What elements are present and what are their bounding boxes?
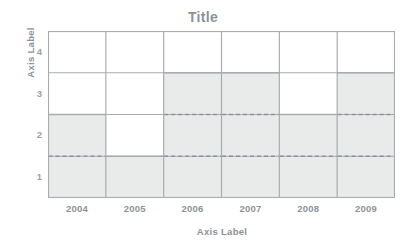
y-tick-label-1: 1 [22, 171, 42, 182]
bar-2005 [106, 156, 164, 198]
bar-2009 [337, 73, 395, 198]
plot-svg [48, 31, 395, 198]
x-tick-label-2009: 2009 [337, 203, 395, 214]
y-axis-label: Axis Label [25, 0, 36, 127]
x-tick-label-2006: 2006 [164, 203, 222, 214]
y-tick-label-2: 2 [22, 129, 42, 140]
bar-2006 [164, 73, 222, 198]
x-tick-label-2007: 2007 [222, 203, 280, 214]
plot-area [48, 31, 395, 198]
chart-title: Title [0, 9, 406, 25]
x-tick-label-2005: 2005 [106, 203, 164, 214]
y-tick-label-3: 3 [22, 88, 42, 99]
x-tick-label-2004: 2004 [48, 203, 106, 214]
bar-2007 [222, 73, 280, 198]
x-axis-label: Axis Label [48, 226, 396, 237]
x-tick-label-2008: 2008 [279, 203, 337, 214]
bar-chart: Title Axis Label 1234 200420052006200720… [0, 0, 406, 247]
y-tick-label-4: 4 [22, 46, 42, 57]
top-cropped-text-sliver [0, 0, 406, 7]
